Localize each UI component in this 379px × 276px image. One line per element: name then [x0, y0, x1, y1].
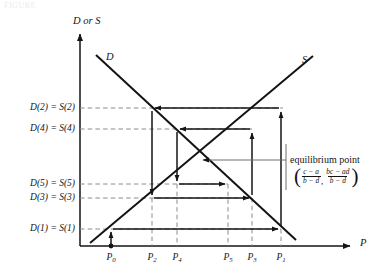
equilibrium-formula: ( c − a b − d , bc − ad b − d ) [294, 168, 358, 186]
xtick-p4-sub: 4 [178, 256, 181, 263]
xtick-p1-sub: 1 [282, 256, 285, 263]
ytick-label-d3: D(3) = S(3) [0, 193, 75, 203]
cobweb-arrows [111, 108, 281, 244]
ytick-label-d1: D(1) = S(1) [0, 224, 75, 234]
figure-canvas [0, 0, 379, 276]
xtick-label-p4: P4 [165, 253, 189, 264]
xtick-p0-sub: 0 [112, 256, 115, 263]
formula-x-numerator: c − a [302, 168, 321, 176]
cobweb-figure: FIGURE [0, 0, 379, 276]
axes-group [80, 34, 350, 246]
ytick-label-d2: D(2) = S(2) [0, 103, 75, 113]
supply-curve [90, 56, 313, 243]
formula-open-paren: ( [294, 168, 301, 186]
formula-close-paren: ) [351, 168, 358, 186]
xtick-label-p2: P2 [140, 253, 164, 264]
supply-curve-label: S [302, 55, 307, 66]
ytick-label-d4: D(4) = S(4) [0, 124, 75, 134]
xtick-p3-sub: 3 [253, 256, 256, 263]
x-axis-label: P [360, 238, 366, 249]
xtick-p5-sub: 5 [229, 256, 232, 263]
xtick-label-p3: P3 [240, 253, 264, 264]
formula-y-denominator: b − d [328, 176, 347, 185]
xtick-label-p5: P5 [216, 253, 240, 264]
formula-x-denominator: b − d [302, 176, 321, 185]
demand-curve-label: D [106, 52, 114, 63]
formula-y-numerator: bc − ad [325, 168, 351, 176]
dashed-price-guides [152, 184, 281, 246]
xtick-label-p1: P1 [269, 253, 293, 264]
equilibrium-leader [203, 144, 286, 190]
xtick-p2-sub: 2 [153, 256, 156, 263]
formula-comma: , [321, 176, 324, 186]
formula-x-fraction: c − a b − d [302, 168, 321, 185]
xtick-label-p0: P0 [99, 253, 123, 264]
y-axis-label: D or S [73, 16, 100, 27]
formula-y-fraction: bc − ad b − d [325, 168, 351, 185]
ytick-label-d5: D(5) = S(5) [0, 179, 75, 189]
p0-start-point [109, 244, 114, 249]
